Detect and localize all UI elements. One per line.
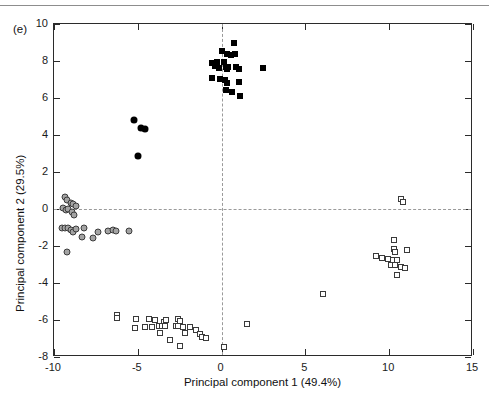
data-point-open-square: [404, 247, 410, 253]
y-tick-label: 10: [20, 17, 48, 29]
data-point-filled-square: [260, 65, 266, 71]
data-point-open-square: [379, 255, 385, 261]
data-point-filled-square: [223, 87, 229, 93]
y-tick-right: [465, 246, 471, 247]
x-tick-label: -5: [132, 361, 142, 373]
x-tick-label: 0: [218, 361, 224, 373]
x-tick-bottom: [54, 349, 55, 355]
data-point-filled-square: [216, 65, 222, 71]
data-point-gray-circle: [81, 225, 88, 232]
data-point-open-square: [167, 337, 173, 343]
x-axis-title: Principal component 1 (49.4%): [53, 376, 472, 388]
y-tick-right: [465, 283, 471, 284]
data-point-open-square: [320, 291, 326, 297]
y-tick-right: [465, 98, 471, 99]
data-point-filled-circle: [141, 125, 148, 132]
data-point-open-square: [114, 315, 120, 321]
data-point-open-square: [400, 199, 406, 205]
y-tick-label: 8: [20, 54, 48, 66]
data-point-open-square: [182, 330, 188, 336]
data-point-open-square: [157, 330, 163, 336]
y-tick-label: -6: [20, 313, 48, 325]
y-tick-right: [465, 320, 471, 321]
y-tick-left: [54, 135, 60, 136]
data-point-filled-circle: [130, 117, 137, 124]
data-point-gray-circle: [71, 211, 78, 218]
y-tick-left: [54, 24, 60, 25]
data-point-gray-circle: [63, 248, 70, 255]
data-point-open-square: [394, 272, 400, 278]
data-point-open-square: [142, 324, 148, 330]
data-point-gray-circle: [79, 233, 86, 240]
data-point-gray-circle: [72, 226, 79, 233]
data-point-open-square: [162, 323, 168, 329]
data-point-filled-square: [229, 89, 235, 95]
y-tick-left: [54, 98, 60, 99]
data-point-gray-circle: [113, 228, 120, 235]
data-point-open-square: [177, 343, 183, 349]
figure-panel-e: (e) -10-5051015 -8-6-4-20246810 Principa…: [0, 0, 489, 406]
zero-reference-line: [222, 24, 223, 355]
y-tick-left: [54, 320, 60, 321]
data-point-gray-circle: [125, 228, 132, 235]
x-tick-label: 15: [466, 361, 478, 373]
zero-reference-line: [54, 209, 471, 210]
data-point-open-square: [392, 249, 398, 255]
x-tick-bottom: [389, 349, 390, 355]
data-point-filled-square: [236, 66, 242, 72]
x-tick-label: 10: [382, 361, 394, 373]
y-tick-right: [465, 172, 471, 173]
x-tick-bottom: [473, 349, 474, 355]
x-tick-top: [305, 24, 306, 30]
y-axis-title: Principal component 2 (29.5%): [14, 155, 26, 312]
data-point-open-square: [244, 321, 250, 327]
y-tick-right: [465, 24, 471, 25]
y-tick-label: -8: [20, 350, 48, 362]
x-tick-label: 5: [301, 361, 307, 373]
data-point-open-square: [221, 344, 227, 350]
y-tick-right: [465, 357, 471, 358]
data-point-open-square: [132, 325, 138, 331]
x-tick-top: [389, 24, 390, 30]
y-tick-label: 4: [20, 128, 48, 140]
data-point-filled-square: [237, 93, 243, 99]
data-point-open-square: [133, 316, 139, 322]
y-tick-right: [465, 135, 471, 136]
data-point-open-square: [391, 237, 397, 243]
x-tick-label: -10: [45, 361, 61, 373]
y-tick-left: [54, 61, 60, 62]
data-point-gray-circle: [89, 234, 96, 241]
y-tick-left: [54, 357, 60, 358]
x-tick-bottom: [138, 349, 139, 355]
data-point-filled-square: [214, 59, 220, 65]
data-point-filled-square: [231, 40, 237, 46]
y-tick-left: [54, 283, 60, 284]
data-point-filled-square: [232, 51, 238, 57]
y-tick-left: [54, 172, 60, 173]
data-point-open-square: [402, 265, 408, 271]
data-point-gray-circle: [95, 229, 102, 236]
data-point-filled-circle: [134, 153, 141, 160]
data-point-filled-square: [209, 75, 215, 81]
y-tick-left: [54, 246, 60, 247]
y-tick-label: 6: [20, 91, 48, 103]
data-point-filled-square: [224, 80, 230, 86]
x-tick-top: [138, 24, 139, 30]
plot-frame: [53, 23, 472, 356]
x-tick-bottom: [305, 349, 306, 355]
header-rule: [0, 5, 489, 6]
data-point-filled-square: [224, 66, 230, 72]
data-point-open-square: [146, 316, 152, 322]
x-tick-top: [473, 24, 474, 30]
data-point-open-square: [149, 324, 155, 330]
data-point-filled-square: [236, 79, 242, 85]
y-tick-right: [465, 61, 471, 62]
data-point-open-square: [203, 335, 209, 341]
